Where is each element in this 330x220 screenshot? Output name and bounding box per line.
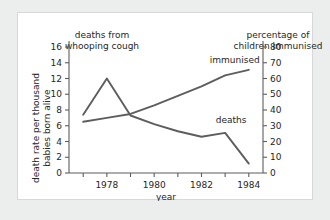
left-axis-tick-label: 16 (51, 42, 63, 52)
right-axis-tick-label: 30 (270, 121, 282, 131)
left-axis-tick-label: 6 (56, 121, 62, 131)
right-axis-tick-label: 60 (270, 74, 282, 84)
ticks-group (65, 47, 267, 177)
left-axis-tick-label: 0 (56, 168, 62, 178)
chart-page: deaths from whooping cough percentage of… (0, 0, 330, 220)
right-axis-tick-label: 40 (270, 105, 282, 115)
right-axis-tick-label: 0 (270, 168, 276, 178)
right-axis-tick-label: 70 (270, 58, 282, 68)
left-axis-tick-label: 10 (51, 89, 63, 99)
right-axis-tick-label: 80 (270, 42, 282, 52)
x-axis-tick-label: 1980 (143, 180, 166, 190)
series-labels-group: immuniseddeaths (210, 55, 260, 124)
series-label-immunised: immunised (210, 55, 260, 65)
series-label-deaths: deaths (216, 115, 247, 125)
right-axis-tick-label: 20 (270, 137, 282, 147)
chart-card: deaths from whooping cough percentage of… (17, 12, 313, 200)
chart-plot-svg: 0246810121416010203040506070801978198019… (18, 13, 314, 201)
x-axis-tick-label: 1978 (95, 180, 118, 190)
left-axis-tick-label: 12 (51, 74, 62, 84)
right-axis-tick-label: 10 (270, 152, 282, 162)
x-axis-tick-label: 1984 (237, 180, 260, 190)
left-axis-tick-label: 4 (56, 137, 62, 147)
left-axis-tick-label: 2 (56, 152, 62, 162)
left-axis-tick-label: 14 (51, 58, 63, 68)
x-axis-title: year (156, 192, 176, 201)
right-axis-tick-label: 50 (270, 89, 282, 99)
left-axis-tick-label: 8 (56, 105, 62, 115)
x-axis-tick-label: 1982 (190, 180, 213, 190)
x-axis-title-group: year (156, 192, 176, 201)
